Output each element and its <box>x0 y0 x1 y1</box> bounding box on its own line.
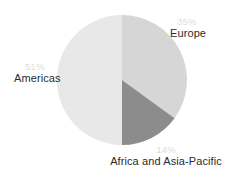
pie-label-americas-percent: 51% <box>25 62 61 72</box>
pie-chart: 35% Europe 51% Americas 14% Africa and A… <box>0 0 235 178</box>
pie-label-africa-and-asia-pacific: 14% Africa and Asia-Pacific <box>100 145 232 168</box>
pie-slice-americas[interactable] <box>57 15 126 145</box>
pie-label-europe-percent: 35% <box>177 17 206 27</box>
pie-label-africa-and-asia-pacific-name: Africa and Asia-Pacific <box>100 156 232 168</box>
pie-label-africa-and-asia-pacific-percent: 14% <box>100 145 232 155</box>
pie-label-europe: 35% Europe <box>170 17 206 40</box>
pie-label-americas: 51% Americas <box>14 62 61 85</box>
pie-label-europe-name: Europe <box>170 28 206 40</box>
pie-label-americas-name: Americas <box>14 73 61 85</box>
